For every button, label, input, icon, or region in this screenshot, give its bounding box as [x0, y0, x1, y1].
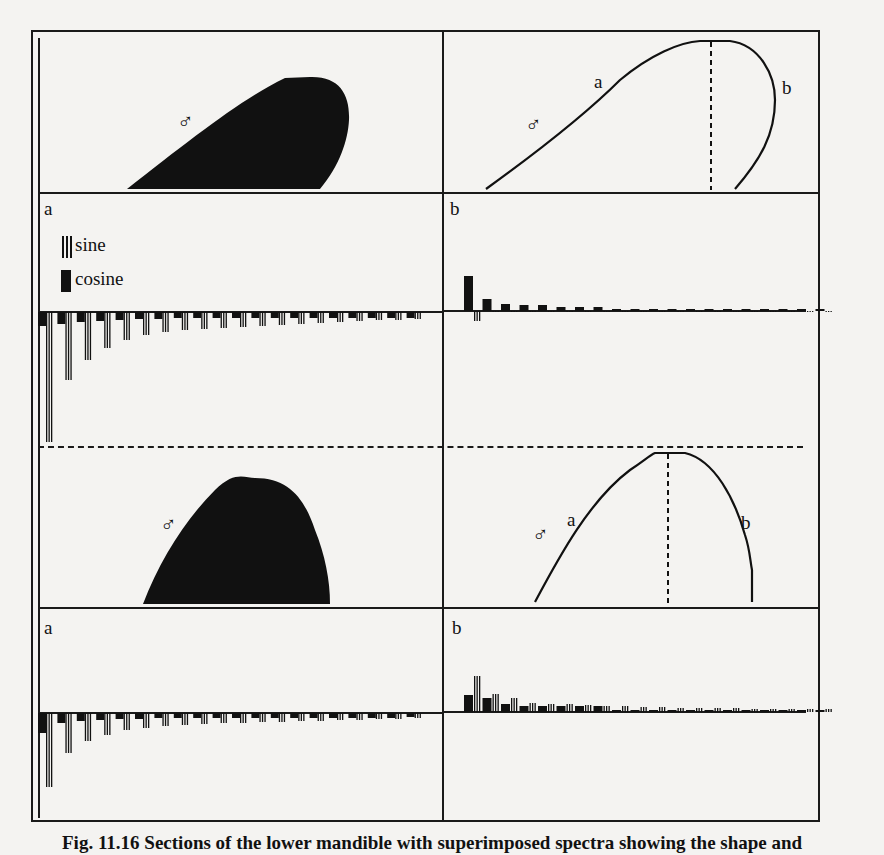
- figure-caption: Fig. 11.16 Sections of the lower mandibl…: [62, 832, 802, 854]
- spectrum-bottom-b: [0, 0, 884, 855]
